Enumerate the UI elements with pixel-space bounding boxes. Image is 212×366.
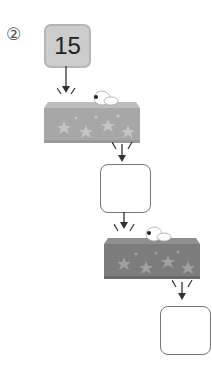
start-number-box: 15 — [44, 24, 91, 68]
answer-box-2[interactable] — [160, 306, 211, 355]
magic-box-machine-dark — [104, 224, 204, 284]
answer-box-1[interactable] — [100, 164, 151, 213]
arrow-down-icon — [172, 280, 196, 304]
arrow-down-icon — [112, 142, 136, 166]
start-number: 15 — [54, 32, 81, 60]
problem-number: ② — [6, 24, 21, 44]
magic-box-machine-light — [44, 88, 144, 148]
